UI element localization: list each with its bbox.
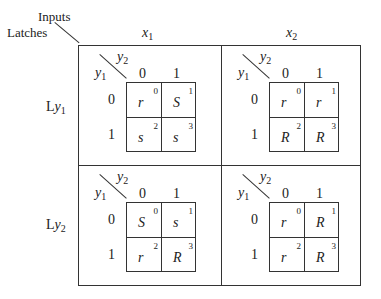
kmap-cell: R3: [305, 238, 340, 273]
corner-diagonal: [54, 22, 79, 43]
kmap-cell: r2: [270, 238, 305, 273]
kmap-col-1: 1: [316, 67, 323, 81]
kmap-cell: R3: [162, 238, 197, 273]
kmap-ly1-x1: y2 y1 0 1 0 1 r0 S1 s2 s3: [79, 46, 219, 164]
kmap-cell: s1: [162, 203, 197, 238]
kmap-col-1: 1: [173, 187, 180, 201]
kmap-col-0: 0: [282, 67, 289, 81]
kmap-row-0: 0: [108, 93, 115, 107]
kmap-col-0: 0: [139, 67, 146, 81]
kmap-ly2-x1: y2 y1 0 1 0 1 S0 s1 r2 R3: [79, 166, 219, 284]
kmap-col-var: y2: [260, 170, 271, 186]
kmap-col-var: y2: [117, 50, 128, 66]
kmap-row-1: 1: [251, 248, 258, 262]
kmap-col-1: 1: [316, 187, 323, 201]
column-header-x2: x2: [286, 26, 297, 42]
kmap-cell: s3: [162, 118, 197, 153]
kmap-row-var: y1: [95, 186, 106, 202]
kmap-grid: S0 s1 r2 R3: [126, 202, 196, 272]
kmap-cell: r2: [127, 238, 162, 273]
kmap-row-var: y1: [95, 66, 106, 82]
row-header-ly2: Ly2: [46, 218, 66, 234]
kmap-col-0: 0: [139, 187, 146, 201]
kmap-cell: R3: [305, 118, 340, 153]
row-header-ly1: Ly1: [46, 100, 66, 116]
kmap-grid: r0 R1 r2 R3: [269, 202, 339, 272]
kmap-row-1: 1: [108, 128, 115, 142]
kmap-cell: S1: [162, 83, 197, 118]
kmap-ly2-x2: y2 y1 0 1 0 1 r0 R1 r2 R3: [222, 166, 362, 284]
kmap-cell: r0: [270, 203, 305, 238]
kmap-grid: r0 S1 s2 s3: [126, 82, 196, 152]
kmap-row-1: 1: [108, 248, 115, 262]
kmap-col-0: 0: [282, 187, 289, 201]
kmap-col-1: 1: [173, 67, 180, 81]
kmap-cell: S0: [127, 203, 162, 238]
column-header-x1: x1: [142, 26, 153, 42]
kmap-cell: R1: [305, 203, 340, 238]
kmap-row-0: 0: [251, 93, 258, 107]
kmap-cell: R2: [270, 118, 305, 153]
kmap-row-1: 1: [251, 128, 258, 142]
kmap-ly1-x2: y2 y1 0 1 0 1 r0 r1 R2 R3: [222, 46, 362, 164]
latches-label: Latches: [7, 26, 47, 39]
kmap-col-var: y2: [260, 50, 271, 66]
kmap-cell: s2: [127, 118, 162, 153]
outer-bottom-border: [78, 285, 361, 286]
kmap-cell: r1: [305, 83, 340, 118]
kmap-cell: r0: [127, 83, 162, 118]
kmap-row-0: 0: [108, 213, 115, 227]
kmap-row-var: y1: [238, 186, 249, 202]
kmap-row-0: 0: [251, 213, 258, 227]
kmap-grid: r0 r1 R2 R3: [269, 82, 339, 152]
kmap-col-var: y2: [117, 170, 128, 186]
kmap-cell: r0: [270, 83, 305, 118]
kmap-row-var: y1: [238, 66, 249, 82]
